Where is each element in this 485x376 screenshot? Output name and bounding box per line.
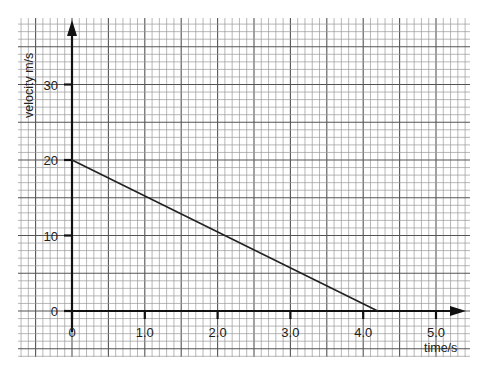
y-tick-label: 20 — [44, 153, 58, 168]
y-axis-arrow-icon — [67, 20, 77, 36]
x-axis-title: time/s — [424, 341, 457, 355]
x-tick-label: 0 — [68, 325, 75, 340]
y-tick-label: 0 — [51, 304, 58, 319]
x-tick-label: 4.0 — [354, 325, 372, 340]
y-tick-label: 10 — [44, 229, 58, 244]
axis-ticks — [64, 85, 436, 320]
graph-paper-grid — [18, 18, 470, 357]
y-axis-title: velocity m/s — [22, 53, 36, 118]
axes — [64, 20, 466, 332]
x-tick-label: 3.0 — [281, 325, 299, 340]
y-tick-label: 30 — [44, 78, 58, 93]
x-tick-label: 2.0 — [209, 325, 227, 340]
x-tick-label: 1.0 — [136, 325, 154, 340]
x-tick-label: 5.0 — [427, 325, 445, 340]
velocity-time-graph: 01.02.03.04.05.00102030 time/s velocity … — [0, 0, 485, 376]
